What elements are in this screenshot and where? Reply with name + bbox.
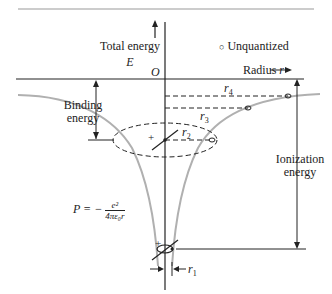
- potential-formula: P = − e² 4πε₀r: [73, 200, 125, 221]
- ionization-energy-label: Ionization energy: [270, 153, 330, 179]
- origin-label: O: [151, 66, 160, 79]
- unquantized-legend: ○ Unquantized: [219, 40, 289, 54]
- r1-label: r1: [188, 263, 197, 280]
- total-energy-label: Total energy: [95, 40, 165, 53]
- r4-label: r4: [224, 82, 233, 99]
- r2-label: r2: [182, 126, 191, 143]
- nucleus-plus-r2: +: [148, 131, 154, 144]
- potential-curve-right: [172, 94, 320, 266]
- nucleus-plus-r1: +: [155, 237, 161, 250]
- radius-label: Radius r: [243, 64, 284, 77]
- binding-energy-label: Binding energy: [58, 99, 108, 125]
- arrow-up-icon: [152, 20, 158, 27]
- r3-label: r3: [200, 110, 209, 127]
- arrow-right-icon: [285, 67, 292, 73]
- small-circle-icon: ○: [219, 42, 224, 52]
- energy-symbol: E: [120, 56, 140, 69]
